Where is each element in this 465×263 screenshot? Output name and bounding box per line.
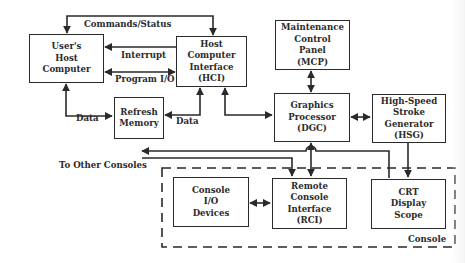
block-label: Remote (291, 181, 328, 193)
block-label: Devices (193, 208, 230, 220)
hci-block: Host Computer Interface (HCI) (176, 36, 247, 87)
rci-block: Remote Console Interface (RCI) (272, 178, 347, 229)
block-label: (MCP) (297, 57, 328, 69)
host-memory-data-line (66, 84, 112, 116)
hci-dgc-line (225, 88, 272, 115)
block-label: Interface (189, 62, 233, 74)
mcp-block: Maintenance Control Panel (MCP) (275, 20, 350, 70)
program-io-label: Program I/O (115, 74, 175, 84)
block-label: High-Speed (381, 96, 437, 108)
block-label: (RCI) (296, 215, 322, 227)
hsg-block: High-Speed Stroke Generator (HSG) (372, 94, 446, 143)
block-label: Processor (288, 112, 335, 124)
block-label: I/O (204, 196, 219, 208)
block-label: Panel (299, 45, 326, 57)
data-label-right: Data (176, 116, 199, 126)
to-other-consoles-label: To Other Consoles (59, 160, 147, 170)
block-label: Computer (188, 50, 236, 62)
block-label: Refresh (120, 107, 157, 119)
crt-to-other-consoles-line (142, 146, 389, 178)
crt-display-scope-block: CRT Display Scope (371, 179, 446, 229)
block-label: Display (391, 198, 426, 210)
refresh-memory-block: Refresh Memory (114, 97, 164, 139)
block-label: Control (294, 34, 330, 46)
block-label: Scope (394, 210, 423, 222)
other-consoles-to-rci-line (142, 158, 292, 176)
block-label: User's (52, 41, 82, 53)
block-label: CRT (398, 187, 418, 199)
block-label: (HCI) (198, 73, 225, 85)
users-host-computer-block: User's Host Computer (29, 34, 104, 83)
dgc-block: Graphics Processor (DGC) (274, 93, 350, 142)
hci-memory-data-line (165, 88, 200, 115)
console-io-devices-block: Console I/O Devices (173, 177, 249, 227)
data-label-left: Data (76, 113, 99, 123)
block-label: Memory (119, 118, 158, 130)
interrupt-label: Interrupt (121, 50, 166, 60)
block-label: Host (55, 53, 78, 65)
block-label: (DGC) (297, 123, 327, 135)
block-label: Console (290, 192, 328, 204)
block-label: Generator (385, 119, 434, 131)
block-label: Interface (287, 204, 331, 216)
block-label: (HSG) (394, 130, 424, 142)
console-group-label: Console (408, 234, 446, 244)
block-label: Host (200, 39, 223, 51)
block-label: Maintenance (281, 22, 344, 34)
block-label: Computer (43, 64, 91, 76)
block-label: Stroke (393, 107, 425, 119)
block-label: Console (192, 185, 230, 197)
block-label: Graphics (290, 100, 333, 112)
commands-status-label: Commands/Status (84, 19, 171, 29)
block-diagram: User's Host Computer Host Computer Inter… (0, 0, 465, 263)
scan-edge-shading (451, 0, 465, 263)
